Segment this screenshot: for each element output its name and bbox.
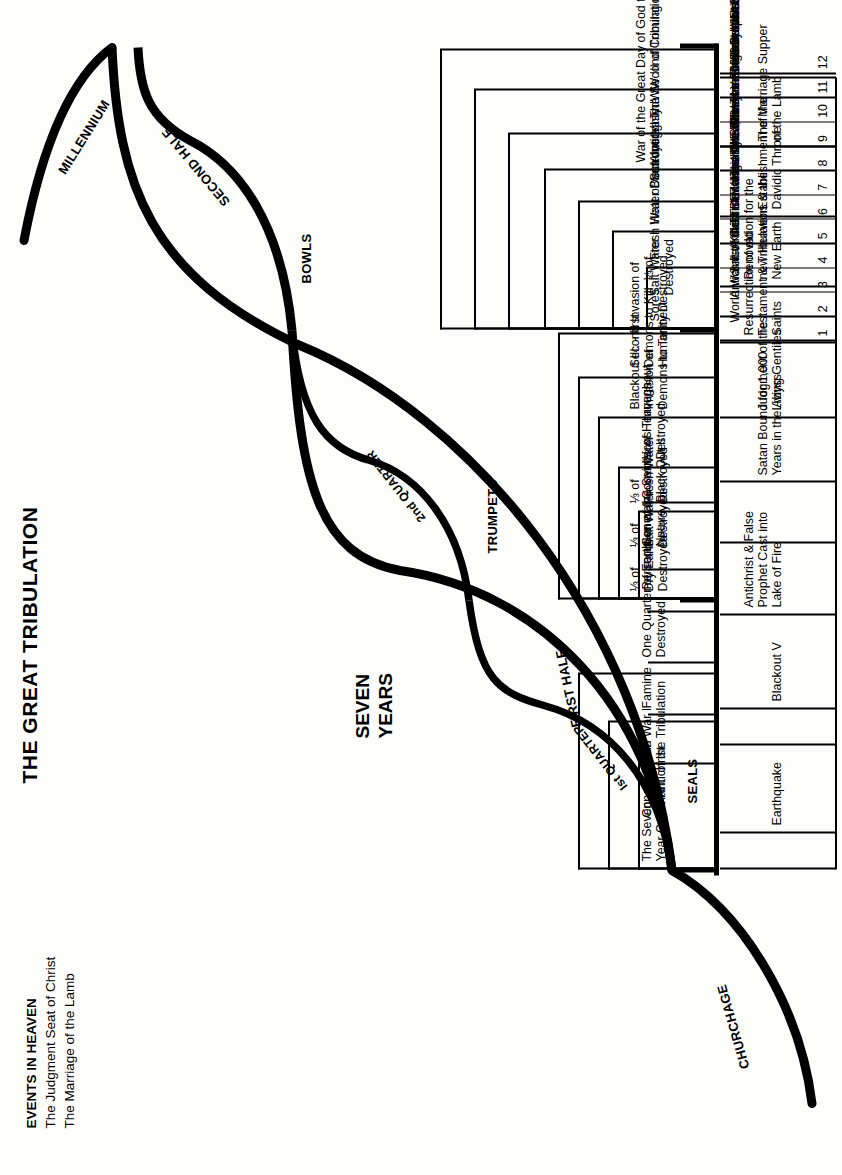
numbered-index-2: 2 [816,305,830,312]
millennium-item-0: Earthquake [770,762,784,825]
spine-tick-end [680,43,718,48]
poster-canvas: THE GREAT TRIBULATION EVENTS IN HEAVEN T… [0,0,842,1175]
numbered-index-1: 1 [816,329,830,336]
seals-item-3: Famine [640,667,654,708]
numbered-index-7: 7 [816,183,830,190]
seals-rule-5 [648,661,714,663]
bowls-bracket-5-right [508,132,714,134]
mill-rule-2 [720,743,836,745]
trumpets-bracket-2-top [618,467,620,599]
numbered-rule-8 [720,169,836,171]
millennium-item-2: Antichrist & False Prophet Cast into Lak… [742,511,784,607]
numbered-rule-3 [720,291,836,293]
numbered-rule-12 [720,72,836,74]
bowls-bracket-6-right [474,88,714,90]
bowls-bracket-7-right [440,48,714,50]
bowls-bracket-6-top [474,89,476,329]
bowls-bracket-3-top [578,201,580,329]
bowls-bracket-4-top [544,169,546,329]
bowls-bracket-7-top [440,49,442,329]
section-label-trumpets: TRUMPETS [486,479,501,553]
timeline-spine [714,43,719,875]
bowls-bracket-2-top [612,231,614,329]
mill-rule-0 [720,867,836,869]
trumpets-bracket-4-top [578,377,580,599]
trumpets-bracket-3-top [598,417,600,599]
bowls-bracket-3-right [578,200,714,202]
bowls-bracket-2-right [612,230,714,232]
seals-bracket-3-left [578,867,714,869]
trumpets-bracket-5-left [558,597,714,599]
bowls-bracket-4-right [544,168,714,170]
numbered-label-12: Persecution of the Jews Begins [728,0,742,55]
numbered-rule-10 [720,121,836,123]
trumpets-bracket-5-top [558,333,560,599]
numbered-rule-7 [720,194,836,196]
numbered-index-12: 12 [816,55,830,69]
rotated-diagram: THE GREAT TRIBULATION EVENTS IN HEAVEN T… [0,0,842,1175]
numbered-rule-1 [720,339,836,341]
numbered-rule-9 [720,145,836,147]
numbered-index-6: 6 [816,208,830,215]
numbered-index-10: 10 [816,104,830,118]
numbered-rule-5 [720,242,836,244]
numbered-index-4: 4 [816,256,830,263]
bowls-item-6: The Second Coming of Christ [648,0,662,118]
numbered-rule-4 [720,267,836,269]
numbered-index-5: 5 [816,232,830,239]
seals-bracket-2-top [608,721,610,869]
section-label-seals: SEALS [686,758,701,803]
numbered-rule-6 [720,218,836,220]
numbered-index-11: 11 [816,80,830,93]
numbered-index-9: 9 [816,135,830,142]
mill-rule-6 [720,480,836,482]
millennium-item-8: The Marriage Supper of the Lamb [756,24,784,141]
numbered-rule-2 [720,315,836,317]
section-label-bowls: BOWLS [300,233,315,283]
numbered-rule-11 [720,96,836,98]
mill-rule-1 [720,831,836,833]
mill-rule-4 [720,613,836,615]
mill-rule-3 [720,707,836,709]
numbered-index-8: 8 [816,159,830,166]
bowls-bracket-5-top [508,133,510,329]
bowls-bracket-7-left [440,327,714,329]
millennium-item-1: Blackout V [770,642,784,701]
seals-bracket-3-top [578,673,580,869]
mill-baseline [835,216,837,869]
arc-millennium [24,47,112,240]
numbered-index-3: 3 [816,281,830,288]
